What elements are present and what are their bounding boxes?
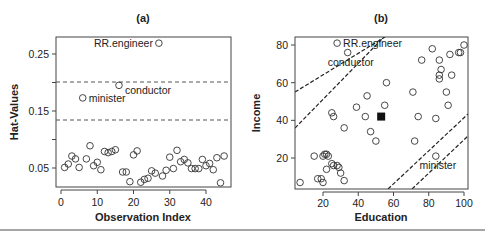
panel-b-y-label: Income: [250, 94, 262, 133]
data-point: [134, 148, 141, 155]
data-point: [436, 72, 443, 79]
data-point: [199, 156, 206, 163]
panel-a-x-tick-label: 0: [58, 196, 64, 208]
panel-b-y-tick-label: 60: [276, 77, 288, 89]
data-point: [461, 42, 468, 49]
data-point: [337, 170, 344, 177]
data-point: [443, 89, 450, 96]
figure: (a) 0.050.150.25 010203040 RR.engineerco…: [0, 0, 485, 235]
data-point: [415, 113, 422, 120]
panel-a-x-tick-label: 10: [91, 196, 103, 208]
data-point: [429, 45, 436, 52]
panel-a-annotations: RR.engineerconductorminister: [89, 37, 172, 104]
data-point: [87, 142, 94, 149]
panel-a-title: (a): [136, 12, 150, 24]
data-point: [320, 179, 327, 186]
data-point: [448, 72, 455, 79]
panel-b-x-tick-label: 80: [423, 197, 435, 209]
panel-a-x-tick-label: 20: [128, 196, 140, 208]
data-point: [383, 79, 390, 86]
data-point: [323, 166, 330, 173]
centroid-marker: [377, 113, 385, 121]
data-point: [341, 177, 348, 184]
data-point: [210, 166, 217, 173]
data-point: [353, 104, 360, 111]
panel-a-x-tick-label: 30: [164, 196, 176, 208]
data-point: [373, 138, 380, 145]
data-point: [221, 153, 228, 160]
data-point: [145, 175, 152, 182]
data-point: [98, 166, 105, 173]
data-point: [445, 102, 452, 109]
annotation-rr-engineer: RR.engineer: [94, 37, 153, 49]
data-point: [170, 165, 177, 172]
annotation-minister: minister: [89, 92, 126, 104]
data-point: [334, 40, 341, 47]
panel-b-y-tick-label: 80: [276, 39, 288, 51]
annotation-rr-engineer: RR.engineer: [343, 37, 402, 49]
data-point: [174, 147, 181, 154]
data-point: [166, 154, 173, 161]
data-point: [127, 178, 134, 185]
panel-b-x-tick-label: 40: [352, 197, 364, 209]
panel-a-x-tick-label: 40: [200, 196, 212, 208]
data-point: [83, 156, 90, 163]
panel-a-y-label: Hat-Values: [8, 84, 20, 140]
data-point: [447, 51, 454, 58]
data-point: [116, 82, 123, 89]
panel-a-y-tick-label: 0.05: [29, 162, 50, 174]
data-point: [381, 102, 388, 109]
data-point: [329, 110, 336, 117]
panel-a-y-tick-label: 0.25: [29, 48, 50, 60]
data-point: [367, 128, 374, 135]
data-point: [79, 95, 86, 102]
panel-b-y-tick-label: 40: [276, 114, 288, 126]
data-point: [217, 180, 224, 187]
data-point: [156, 40, 163, 47]
panel-a-x-label: Observation Index: [95, 211, 192, 223]
data-point: [130, 152, 137, 159]
data-point: [433, 115, 440, 122]
annotation-conductor: conductor: [328, 56, 375, 68]
data-point: [163, 167, 170, 174]
panel-a-points: [61, 40, 227, 186]
data-point: [311, 153, 318, 160]
data-point: [410, 89, 417, 96]
panel-a-x-axis: 010203040: [58, 190, 212, 208]
data-point: [330, 113, 337, 120]
panel-a-plot-box: [56, 37, 231, 187]
panel-a-y-tick-label: 0.15: [29, 105, 50, 117]
data-point: [436, 76, 443, 83]
panel-b-x-axis: 20406080100: [317, 192, 473, 209]
data-point: [364, 93, 371, 100]
data-point: [297, 179, 304, 186]
panel-b-y-tick-label: 20: [276, 152, 288, 164]
data-point: [214, 154, 221, 161]
panel-b-x-tick-label: 100: [455, 197, 473, 209]
panel-b-y-axis: 20406080: [276, 39, 295, 164]
panel-a: (a) 0.050.150.25 010203040 RR.engineerco…: [8, 12, 231, 223]
data-point: [76, 164, 83, 171]
panel-b: (b) 20406080 20406080100 RR.engineercond…: [250, 12, 473, 223]
data-point: [418, 57, 425, 64]
panel-b-x-label: Education: [354, 211, 407, 223]
panel-b-title: (b): [374, 12, 388, 24]
data-point: [411, 138, 418, 145]
data-point: [362, 113, 369, 120]
panel-b-x-tick-label: 20: [317, 197, 329, 209]
annotation-conductor: conductor: [125, 84, 172, 96]
panel-a-y-axis: 0.050.150.25: [29, 48, 56, 174]
panel-b-x-tick-label: 60: [388, 197, 400, 209]
annotation-minister: minister: [419, 159, 456, 171]
data-point: [341, 125, 348, 132]
data-point: [436, 57, 443, 64]
